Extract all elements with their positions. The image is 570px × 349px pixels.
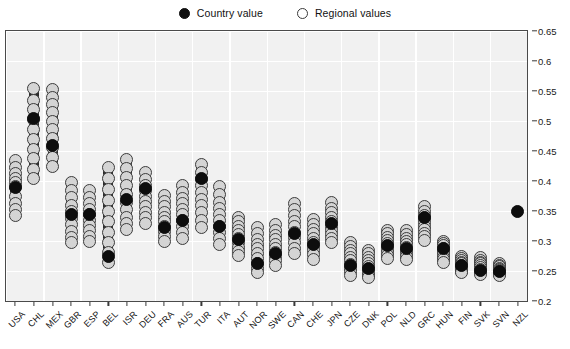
country-value-dot	[65, 208, 78, 221]
country-column[interactable]	[508, 31, 527, 301]
x-tick-label-tur: TUR	[193, 309, 214, 330]
country-column[interactable]	[322, 31, 341, 301]
x-tick-label-gbr: GBR	[62, 309, 83, 330]
x-tick-label-ita: ITA	[215, 309, 232, 326]
x-tick-label-hun: HUN	[434, 309, 455, 330]
x-tick-mark	[52, 302, 53, 306]
x-tick-mark	[257, 302, 258, 306]
x-tick-mark	[238, 302, 239, 306]
country-column[interactable]	[285, 31, 304, 301]
regional-value-dot	[9, 209, 22, 222]
country-column[interactable]	[415, 31, 434, 301]
chart-root: Country value Regional values 0.20.250.3…	[0, 0, 570, 349]
x-tick-label-nzl: NZL	[510, 309, 530, 329]
regional-value-dot	[65, 236, 78, 249]
y-tick-mark	[532, 150, 537, 151]
country-value-dot	[195, 172, 208, 185]
x-tick-mark	[33, 302, 34, 306]
regional-value-dot	[27, 82, 40, 95]
country-column[interactable]	[453, 31, 472, 301]
country-column[interactable]	[25, 31, 44, 301]
x-tick-label-isr: ISR	[121, 309, 139, 327]
country-column[interactable]	[155, 31, 174, 301]
x-tick-label-grc: GRC	[415, 309, 437, 331]
y-tick-mark	[532, 30, 537, 31]
country-column[interactable]	[341, 31, 360, 301]
x-tick-mark	[89, 302, 90, 306]
x-tick-mark	[405, 302, 406, 306]
legend-label-regional: Regional values	[315, 7, 391, 19]
country-value-dot	[46, 139, 59, 152]
plot-area	[5, 30, 528, 302]
y-tick-label: 0.3	[538, 236, 551, 247]
regional-value-dot	[288, 247, 301, 260]
country-column[interactable]	[378, 31, 397, 301]
y-tick-label: 0.5	[538, 116, 551, 127]
x-tick-mark	[331, 302, 332, 306]
x-tick-label-fin: FIN	[456, 309, 474, 327]
x-tick-mark	[387, 302, 388, 306]
x-tick-label-swe: SWE	[266, 309, 288, 331]
y-tick-label: 0.2	[538, 296, 551, 307]
x-tick-label-pol: POL	[379, 309, 399, 329]
x-tick-mark	[480, 302, 481, 306]
regional-value-dot	[232, 249, 245, 262]
country-column[interactable]	[80, 31, 99, 301]
x-tick-mark	[164, 302, 165, 306]
y-tick-label: 0.55	[538, 86, 557, 97]
open-circle-icon	[297, 8, 308, 19]
regional-value-dot	[418, 234, 431, 247]
y-tick-mark	[532, 90, 537, 91]
country-value-dot	[511, 205, 524, 218]
regional-value-dot	[269, 259, 282, 272]
country-column[interactable]	[267, 31, 286, 301]
x-tick-label-nld: NLD	[398, 309, 418, 329]
country-value-dot	[158, 221, 171, 234]
x-tick-mark	[424, 302, 425, 306]
regional-value-dot	[195, 221, 208, 234]
country-column[interactable]	[99, 31, 118, 301]
country-column[interactable]	[471, 31, 490, 301]
country-column[interactable]	[62, 31, 81, 301]
regional-value-dot	[325, 236, 338, 249]
y-tick-mark	[532, 240, 537, 241]
x-tick-label-che: CHE	[304, 309, 325, 330]
regional-value-dot	[27, 172, 40, 185]
x-tick-label-aut: AUT	[230, 309, 250, 329]
country-column[interactable]	[360, 31, 379, 301]
x-tick-label-svk: SVK	[472, 309, 492, 329]
country-column[interactable]	[173, 31, 192, 301]
x-tick-label-nor: NOR	[248, 309, 270, 331]
country-column[interactable]	[43, 31, 62, 301]
legend-label-country: Country value	[197, 7, 263, 19]
legend-entry-regional: Regional values	[297, 7, 391, 19]
country-column[interactable]	[192, 31, 211, 301]
country-column[interactable]	[248, 31, 267, 301]
x-tick-mark	[312, 302, 313, 306]
x-tick-mark	[275, 302, 276, 306]
country-value-dot	[232, 233, 245, 246]
country-column[interactable]	[304, 31, 323, 301]
regional-value-dot	[46, 160, 59, 173]
y-tick-mark	[532, 120, 537, 121]
country-column[interactable]	[211, 31, 230, 301]
gridline-vertical	[527, 31, 528, 301]
y-tick-label: 0.65	[538, 26, 557, 37]
country-value-dot	[362, 262, 375, 275]
country-column[interactable]	[434, 31, 453, 301]
country-column[interactable]	[6, 31, 25, 301]
country-column[interactable]	[136, 31, 155, 301]
country-column[interactable]	[118, 31, 137, 301]
country-column[interactable]	[397, 31, 416, 301]
country-column[interactable]	[490, 31, 509, 301]
country-column[interactable]	[229, 31, 248, 301]
x-tick-mark	[350, 302, 351, 306]
x-axis: USACHLMEXGBRESPBELISRDEUFRAAUSTURITAAUTN…	[5, 302, 528, 349]
regional-value-dot	[213, 238, 226, 251]
y-tick-mark	[532, 300, 537, 301]
y-tick-mark	[532, 270, 537, 271]
y-tick-mark	[532, 210, 537, 211]
country-value-dot	[307, 238, 320, 251]
x-tick-label-chl: CHL	[26, 309, 46, 329]
x-tick-mark	[461, 302, 462, 306]
